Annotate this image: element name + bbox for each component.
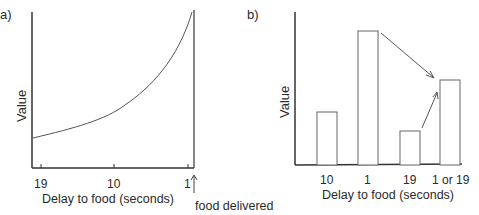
arrow-19-to-mixed-icon	[422, 93, 437, 128]
panel-a-value-curve	[33, 12, 192, 138]
panel-b-tick-label: 1	[364, 173, 371, 187]
bar-delay-1	[358, 31, 378, 165]
figure: a) Value 19 10 1 Delay to food (seconds)…	[0, 0, 479, 215]
bar-delay-1-or-19	[440, 80, 460, 165]
panel-b-tick-label: 1 or 19	[432, 173, 470, 187]
bar-delay-19	[400, 131, 420, 165]
panel-a-tick-label: 1	[184, 177, 191, 191]
panel-b-tick-label: 10	[320, 173, 334, 187]
arrow-1-to-mixed-icon	[381, 33, 433, 77]
panel-a-label: a)	[0, 7, 12, 22]
panel-a-tick-label: 19	[34, 177, 48, 191]
panel-b-label: b)	[247, 7, 259, 22]
panel-b-x-label: Delay to food (seconds)	[322, 188, 454, 202]
panel-b: b) Value 10 1 19 1 or 19 Delay to food (…	[247, 7, 470, 202]
panel-a-tick-label: 10	[107, 177, 121, 191]
panel-b-tick-label: 19	[403, 173, 417, 187]
food-delivered-annotation: food delivered	[195, 199, 274, 213]
panel-a-x-label: Delay to food (seconds)	[42, 192, 174, 206]
panel-a-y-label: Value	[14, 90, 29, 122]
bar-delay-10	[317, 112, 337, 165]
panel-b-y-label: Value	[277, 86, 292, 118]
panel-a: a) Value 19 10 1 Delay to food (seconds)…	[0, 7, 274, 213]
